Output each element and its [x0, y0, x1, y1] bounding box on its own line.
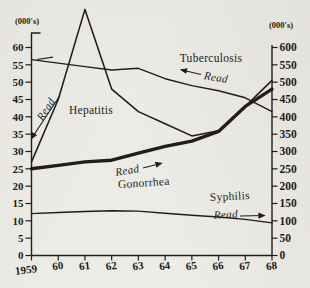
year-label: 60: [52, 259, 65, 272]
syphilis-read-arrow: [240, 216, 265, 217]
series-line-gonorrhea: [32, 89, 273, 169]
right-axis-label: 100: [280, 215, 298, 227]
right-axis-label: 200: [280, 180, 298, 192]
year-label: 63: [132, 259, 145, 272]
right-axis-label: 0: [280, 249, 286, 261]
left-axis-label: 25: [13, 163, 25, 175]
year-label: 65: [185, 259, 198, 272]
left-axis-label: 35: [13, 128, 25, 140]
series-line-hepatitis: [32, 9, 273, 162]
right-axis-label: 150: [280, 197, 298, 209]
right-axis-label: 300: [280, 145, 298, 157]
right-axis-label: 250: [280, 163, 298, 175]
right-axis-label: 600: [280, 41, 298, 53]
disease-incidence-figure: 0510152025303540455055600501001502002503…: [0, 0, 310, 288]
right-axis-unit: (000's): [269, 20, 293, 30]
year-label: 68: [265, 259, 278, 272]
axis-tick-labels: 0510152025303540455055600501001502002503…: [13, 16, 298, 277]
gonorrhea-read-arrow: [143, 163, 162, 168]
right-axis-label: 400: [280, 111, 298, 123]
year-label: 61: [78, 259, 90, 272]
stray-dash: [37, 57, 53, 59]
tuberculosis-read-arrow: [181, 70, 201, 75]
axis-ticks: [26, 48, 278, 261]
left-axis-label: 30: [13, 145, 25, 157]
left-axis-label: 55: [13, 59, 25, 71]
hepatitis-label: Hepatitis: [69, 104, 113, 117]
left-axis-label: 20: [13, 180, 25, 192]
year-label: 62: [105, 259, 118, 272]
disease-trends-chart: 0510152025303540455055600501001502002503…: [0, 0, 310, 288]
left-axis-label: 10: [13, 215, 25, 227]
right-axis-label: 450: [280, 93, 298, 105]
tuberculosis-read: Read: [202, 69, 229, 85]
left-axis-label: 60: [13, 41, 25, 53]
right-axis-label: 50: [280, 232, 292, 244]
left-axis-label: 40: [13, 111, 25, 123]
year-label: 66: [212, 259, 225, 272]
year-label: 64: [158, 259, 171, 272]
scanned-chart-page: 0510152025303540455055600501001502002503…: [0, 0, 310, 288]
left-axis-label: 5: [18, 232, 24, 244]
syphilis-label: Syphilis: [209, 189, 250, 204]
left-axis-label: 50: [13, 76, 25, 88]
left-axis-label: 15: [13, 197, 25, 209]
left-axis-label: 0: [18, 249, 24, 261]
right-axis-label: 500: [280, 76, 298, 88]
gonorrhea-label: Gonorrhea: [117, 175, 170, 191]
syphilis-read: Read: [212, 207, 238, 220]
year-label: 67: [239, 259, 252, 272]
gonorrhea-read: Read: [113, 162, 140, 178]
tuberculosis-label: Tuberculosis: [180, 52, 243, 64]
left-axis-label: 45: [13, 93, 25, 105]
right-axis-label: 550: [280, 59, 298, 71]
annotations: TuberculosisReadHepatitisReadReadGonorrh…: [32, 52, 265, 221]
right-axis-label: 350: [280, 128, 298, 140]
year-label: 1959: [14, 262, 38, 277]
left-axis-unit: (000's): [15, 16, 39, 26]
